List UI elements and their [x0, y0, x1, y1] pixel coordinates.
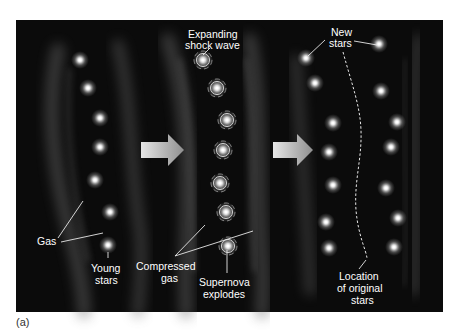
star-core-icon — [327, 150, 330, 153]
star-core-icon — [384, 186, 387, 189]
star-formation-diagram: Gas Young stars Expanding shock wave Com… — [0, 0, 459, 336]
star-core-icon — [221, 148, 224, 151]
star-core-icon — [304, 56, 307, 59]
star-core-icon — [226, 244, 229, 247]
star-core-icon — [98, 145, 101, 148]
compressed-gas-label-line1: Compressed — [136, 261, 196, 273]
expanding-shock-wave-label-line2: shock wave — [185, 40, 240, 52]
young-stars-label-line1: Young — [91, 263, 120, 275]
star-core-icon — [331, 121, 334, 124]
figure-caption: (a) — [16, 316, 29, 328]
star-core-icon — [392, 245, 395, 248]
star-core-icon — [224, 210, 227, 213]
location-label-line1: Location — [339, 271, 379, 283]
star-core-icon — [396, 216, 399, 219]
supernova-explodes-label-line1: Supernova — [199, 277, 250, 289]
star-core-icon — [86, 86, 89, 89]
star-core-icon — [98, 116, 101, 119]
star-core-icon — [313, 81, 316, 84]
star-core-icon — [106, 243, 109, 246]
star-core-icon — [379, 89, 382, 92]
compressed-gas-label-line2: gas — [161, 273, 178, 285]
star-core-icon — [218, 181, 221, 184]
star-core-icon — [225, 118, 228, 121]
star-core-icon — [327, 246, 330, 249]
star-core-icon — [215, 86, 218, 89]
location-label-line2: of original — [337, 283, 383, 295]
star-core-icon — [389, 145, 392, 148]
young-stars-label-line2: stars — [95, 275, 118, 287]
star-core-icon — [108, 210, 111, 213]
new-stars-label-line2: stars — [329, 38, 352, 50]
gas-label: Gas — [37, 236, 56, 248]
star-core-icon — [331, 183, 334, 186]
star-core-icon — [377, 42, 380, 45]
star-core-icon — [201, 58, 204, 61]
star-core-icon — [93, 178, 96, 181]
star-core-icon — [78, 58, 81, 61]
supernova-explodes-label-line2: explodes — [203, 289, 245, 301]
star-core-icon — [324, 220, 327, 223]
star-core-icon — [395, 120, 398, 123]
location-label-line3: stars — [351, 295, 374, 307]
